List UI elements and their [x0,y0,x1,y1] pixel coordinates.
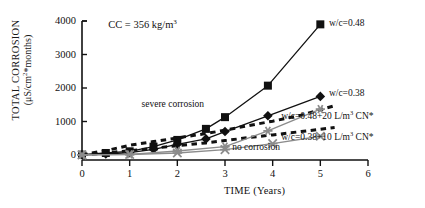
x-tick-label: 6 [358,169,378,180]
series-label-prefix: w/c=0.48 [329,18,365,28]
series-label-suffix: CN* [353,132,373,142]
series-label-3: w/c=0.38+10 L/m3 CN* [281,133,373,143]
series-label-1: w/c=0.38 [329,89,365,99]
y-tick-label: 1000 [30,117,76,128]
series-label-prefix: w/c=0.38+10 L/m [281,132,350,142]
y-tick-label: 0 [30,150,76,161]
x-tick-label: 0 [72,169,92,180]
series-label-0: w/c=0.48 [329,19,365,29]
series-label-2: w/c=0.48+20 L/m3 CN* [281,112,373,122]
marker-filled-square [202,125,210,133]
annotation-no-corrosion: no corrosion [232,143,280,153]
y-tick-label: 3000 [30,50,76,61]
series-label-prefix: w/c=0.48+20 L/m [281,111,350,121]
note-exponent: 3 [173,17,177,25]
y-tick-label: 4000 [30,16,76,27]
chart-figure: TOTAL CORROSION (μS/cm2*months) TIME (Ye… [0,0,425,208]
x-tick-label: 3 [215,169,235,180]
series-label-suffix: CN* [353,111,373,121]
annotation-severe-corrosion: severe corrosion [142,100,205,110]
marker-filled-square [264,82,272,90]
marker-filled-diamond [316,92,326,102]
x-tick-label: 1 [120,169,140,180]
marker-filled-square [316,20,324,28]
note-text: CC = 356 kg/m [108,19,173,30]
x-axis-title: TIME (Years) [224,186,285,197]
x-tick-label: 5 [310,169,330,180]
x-tick-label: 4 [263,169,283,180]
y-axis-title-line1: TOTAL CORROSION [10,0,21,140]
y-tick-label: 2000 [30,83,76,94]
series-label-prefix: w/c=0.38 [329,88,365,98]
note-cc-note: CC = 356 kg/m3 [108,20,177,31]
marker-filled-diamond [263,111,273,121]
y-axis-title-unit-exponent: 2 [21,73,28,76]
x-tick-label: 2 [167,169,187,180]
marker-filled-square [221,113,229,121]
